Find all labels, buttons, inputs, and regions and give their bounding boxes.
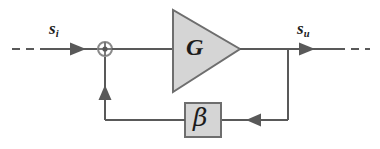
input-signal-label: si — [49, 20, 59, 37]
gain-block-label: G — [186, 35, 203, 59]
feedback-arrowhead-left-icon — [246, 114, 261, 127]
input-arrowhead-icon — [70, 43, 86, 56]
output-signal-label: su — [297, 20, 309, 37]
feedback-arrowhead-up-icon — [99, 85, 112, 100]
input-signal-subscript: i — [56, 28, 59, 39]
output-signal-symbol: s — [297, 19, 304, 38]
gain-triangle-block[interactable] — [173, 10, 240, 92]
input-signal-symbol: s — [49, 19, 56, 38]
output-signal-subscript: u — [304, 28, 310, 39]
feedback-block-label: β — [193, 105, 207, 130]
output-arrowhead-icon — [299, 43, 315, 56]
block-diagram-canvas: si su G β — [0, 0, 380, 149]
